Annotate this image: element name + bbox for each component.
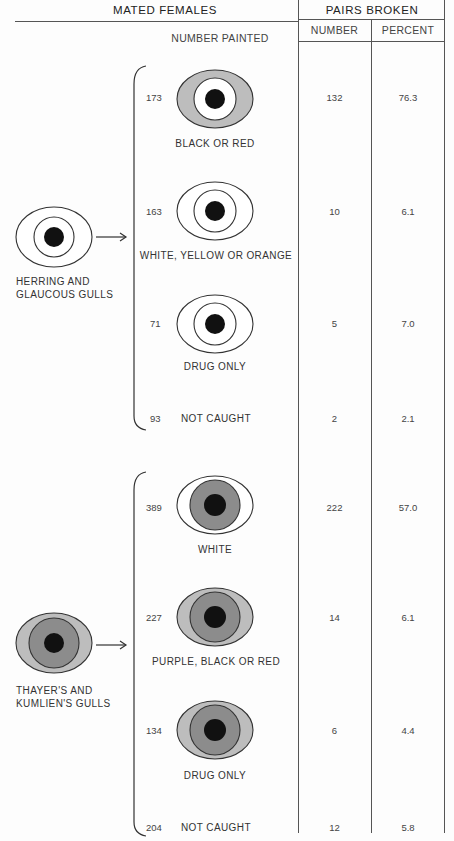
pairs-broken-percent: 7.0	[372, 318, 444, 329]
painted-count: 93	[150, 413, 161, 424]
pairs-broken-number: 12	[298, 822, 371, 833]
header-pairs-broken: PAIRS BROKEN	[298, 4, 446, 16]
pairs-broken-percent: 2.1	[372, 413, 444, 424]
painted-count: 71	[150, 318, 161, 329]
treatment-label: DRUG ONLY	[150, 361, 280, 372]
eye-white-ring-dark-iris-icon	[176, 474, 256, 536]
treatment-label: BLACK OR RED	[150, 138, 280, 149]
eye-dark-ring-dark-iris-icon	[176, 699, 256, 761]
arrow-icon-thayers	[95, 640, 129, 650]
pairs-broken-percent: 6.1	[372, 206, 444, 217]
treatment-label: DRUG ONLY	[150, 770, 280, 781]
header-mated-females: MATED FEMALES	[40, 4, 290, 16]
pairs-broken-number: 6	[298, 725, 371, 736]
painted-count: 204	[146, 822, 162, 833]
treatment-label: PURPLE, BLACK OR RED	[143, 656, 289, 667]
painted-count: 173	[146, 92, 162, 103]
pairs-broken-percent: 4.4	[372, 725, 444, 736]
pairs-broken-percent: 5.8	[372, 822, 444, 833]
bracket-herring	[130, 64, 150, 432]
species-label-thayers-line1: THAYER'S AND	[16, 685, 93, 696]
pairs-broken-number: 5	[298, 318, 371, 329]
header-number-painted: NUMBER PAINTED	[150, 32, 290, 44]
species-label-herring-line1: HERRING AND	[16, 276, 90, 287]
column-line-2	[371, 19, 372, 833]
species-eye-icon-herring	[12, 202, 102, 272]
pairs-broken-number: 132	[298, 92, 371, 103]
pairs-broken-number: 222	[298, 502, 371, 513]
painted-count: 163	[146, 206, 162, 217]
pairs-broken-percent: 6.1	[372, 612, 444, 623]
eye-white-ring-icon	[176, 180, 256, 242]
eye-dark-ring-icon	[176, 68, 256, 130]
bracket-thayers	[130, 470, 150, 838]
pairs-broken-percent: 76.3	[372, 92, 444, 103]
column-line-3	[444, 0, 445, 833]
species-eye-icon-thayers	[12, 608, 102, 678]
pairs-broken-number: 2	[298, 413, 371, 424]
eye-dark-ring-dark-iris-icon	[176, 586, 256, 648]
header-divider-left	[15, 21, 298, 22]
pairs-broken-number: 10	[298, 206, 371, 217]
pairs-broken-number: 14	[298, 612, 371, 623]
treatment-label: NOT CAUGHT	[181, 413, 251, 424]
species-label-herring-line2: GLAUCOUS GULLS	[16, 289, 113, 300]
treatment-label: WHITE, YELLOW OR ORANGE	[138, 250, 294, 261]
painted-count: 389	[146, 502, 162, 513]
treatment-label: WHITE	[150, 544, 280, 555]
treatment-label: NOT CAUGHT	[181, 822, 251, 833]
eye-white-ring-icon	[176, 293, 256, 355]
pairs-broken-percent: 57.0	[372, 502, 444, 513]
species-label-thayers-line2: KUMLIEN'S GULLS	[16, 698, 111, 709]
header-col-number: NUMBER	[298, 24, 371, 36]
painted-count: 227	[146, 612, 162, 623]
header-col-percent: PERCENT	[372, 24, 444, 36]
arrow-icon-herring	[95, 232, 129, 242]
painted-count: 134	[146, 725, 162, 736]
